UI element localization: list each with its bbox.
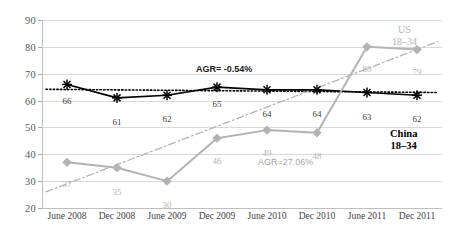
data-point-label: 80 bbox=[363, 64, 372, 74]
data-point-label: 64 bbox=[263, 109, 272, 119]
data-point-label: 37 bbox=[63, 179, 72, 189]
legend-us: US 18–34 bbox=[392, 24, 417, 47]
data-point-label: 30 bbox=[163, 200, 172, 210]
annotation-china-agr: AGR= -0.54% bbox=[196, 64, 252, 74]
data-point-label: 62 bbox=[413, 114, 422, 124]
chart-container: 2030405060708090 June 2008Dec 2008June 2… bbox=[0, 0, 458, 242]
data-point-label: 62 bbox=[163, 114, 172, 124]
data-point-marker bbox=[362, 88, 372, 98]
data-point-marker bbox=[212, 82, 222, 92]
series-layer bbox=[0, 0, 458, 242]
data-point-marker bbox=[162, 90, 172, 100]
data-point-label: 64 bbox=[313, 109, 322, 119]
data-point-label: 63 bbox=[363, 112, 372, 122]
data-point-marker bbox=[263, 126, 271, 134]
trendline bbox=[46, 89, 438, 92]
data-point-label: 61 bbox=[113, 117, 122, 127]
data-point-marker bbox=[312, 85, 322, 95]
data-point-marker bbox=[363, 43, 371, 51]
annotation-us-agr: AGR=27.06% bbox=[258, 157, 313, 167]
data-point-marker bbox=[262, 85, 272, 95]
legend-china-line1: China bbox=[390, 128, 417, 140]
data-point-marker bbox=[63, 158, 71, 166]
data-point-marker bbox=[62, 79, 72, 89]
data-point-label: 66 bbox=[63, 96, 72, 106]
data-point-label: 35 bbox=[113, 187, 122, 197]
legend-china: China 18–34 bbox=[390, 128, 417, 152]
data-point-marker bbox=[412, 90, 422, 100]
data-point-marker bbox=[112, 93, 122, 103]
data-point-label: 65 bbox=[213, 99, 222, 109]
legend-us-line1: US bbox=[392, 24, 417, 36]
legend-us-line2: 18–34 bbox=[392, 36, 417, 48]
legend-china-line2: 18–34 bbox=[390, 140, 417, 152]
data-point-label: 48 bbox=[313, 151, 322, 161]
data-point-marker bbox=[113, 164, 121, 172]
data-point-label: 46 bbox=[213, 156, 222, 166]
data-point-marker bbox=[313, 129, 321, 137]
data-point-label: 79 bbox=[413, 67, 422, 77]
